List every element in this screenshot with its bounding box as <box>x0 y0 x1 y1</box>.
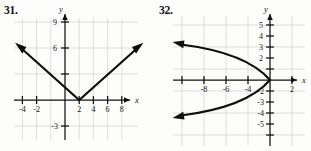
problem-31-xtick-6: 6 <box>106 105 110 114</box>
grid-vertical <box>182 16 292 146</box>
problem-32-y-axis-label: y <box>263 4 268 14</box>
x-axis <box>173 76 297 84</box>
problem-32-x-axis-label: x <box>301 75 306 85</box>
problem-31-xtick-8: 8 <box>120 105 124 114</box>
x-axis <box>14 96 130 104</box>
y-axis <box>61 14 69 140</box>
problem-32-ytick-neg4: -4 <box>257 109 264 118</box>
problem-31-xtick-neg2: -2 <box>33 105 40 114</box>
problem-32-ytick-5: 5 <box>259 21 263 30</box>
problem-32-xtick-2: 2 <box>290 85 294 94</box>
problem-32-xtick-neg6: -6 <box>223 85 230 94</box>
problem-32-xtick-neg4: -4 <box>245 85 252 94</box>
problem-31-xtick-neg4: -4 <box>19 105 26 114</box>
problem-31-x-axis-label: x <box>134 95 139 105</box>
problem-31: 31. <box>0 0 155 151</box>
problem-31-ytick-9: 9 <box>53 18 57 27</box>
problem-32-ytick-4: 4 <box>259 32 263 41</box>
problem-32: 32. <box>155 0 311 151</box>
problem-31-xtick-4: 4 <box>91 105 95 114</box>
problem-31-ytick-6: 6 <box>53 44 57 53</box>
problem-32-xtick-neg8: -8 <box>201 85 208 94</box>
problem-32-ytick-neg3: -3 <box>257 98 264 107</box>
problem-31-xtick-2: 2 <box>77 105 81 114</box>
problem-31-ytick-neg3: -3 <box>51 122 58 131</box>
problem-32-ytick-2: 2 <box>259 54 263 63</box>
problem-32-graph: x y -8 -6 -4 2 5 4 3 2 -2 -3 -4 -5 <box>155 0 311 151</box>
problem-31-y-axis-label: y <box>58 4 63 14</box>
problem-31-graph: x y -4 -2 2 4 6 8 9 6 -3 <box>0 0 155 151</box>
problem-32-ytick-3: 3 <box>259 43 263 52</box>
grid-vertical <box>22 18 121 140</box>
problem-32-ytick-neg5: -5 <box>257 120 264 129</box>
